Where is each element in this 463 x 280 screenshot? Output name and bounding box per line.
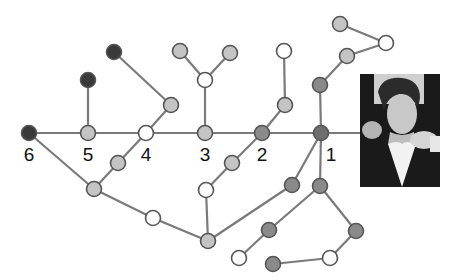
node-k1 (111, 156, 126, 171)
node-c1 (173, 44, 188, 59)
node-k2 (87, 182, 102, 197)
node-b2 (164, 98, 179, 113)
label-degree-1: 1 (326, 144, 337, 165)
label-degree-4: 4 (141, 144, 152, 165)
node-g1 (201, 234, 216, 249)
edge-k3-g1 (153, 218, 208, 241)
node-j3 (266, 257, 281, 272)
label-degree-2: 2 (257, 144, 268, 165)
node-h1 (285, 178, 300, 193)
node-i2 (262, 223, 277, 238)
edge-k2-k3 (94, 189, 153, 218)
node-d1 (277, 44, 292, 59)
node-n5 (81, 126, 96, 141)
node-n2 (255, 126, 270, 141)
node-i3 (232, 251, 247, 266)
node-e1 (333, 17, 348, 32)
node-k3 (146, 211, 161, 226)
node-e4 (313, 78, 328, 93)
label-degree-5: 5 (83, 144, 94, 165)
node-c3 (198, 73, 213, 88)
label-degree-6: 6 (24, 144, 35, 165)
person-photo-image (360, 74, 440, 187)
node-j1 (349, 224, 364, 239)
node-f1 (225, 156, 240, 171)
edge-j2-j3 (273, 258, 330, 264)
node-f2 (199, 183, 214, 198)
node-n3 (198, 126, 213, 141)
edge-i1-j1 (320, 186, 356, 231)
node-i1 (313, 179, 328, 194)
labels-layer: 6 5 4 3 2 1 (24, 144, 337, 165)
node-c2 (223, 46, 238, 61)
node-d2 (278, 98, 293, 113)
node-b1 (107, 45, 122, 60)
edge-b1-b2 (114, 52, 171, 105)
node-n6 (22, 126, 37, 141)
node-n4 (139, 126, 154, 141)
label-degree-3: 3 (200, 144, 211, 165)
node-e3 (340, 49, 355, 64)
center-person-photo (360, 74, 440, 187)
node-n1 (314, 126, 329, 141)
edge-n1-h1 (292, 133, 321, 185)
edge-h1-g1 (208, 185, 292, 241)
node-a1 (81, 73, 96, 88)
node-j2 (323, 251, 338, 266)
node-e2 (379, 36, 394, 51)
